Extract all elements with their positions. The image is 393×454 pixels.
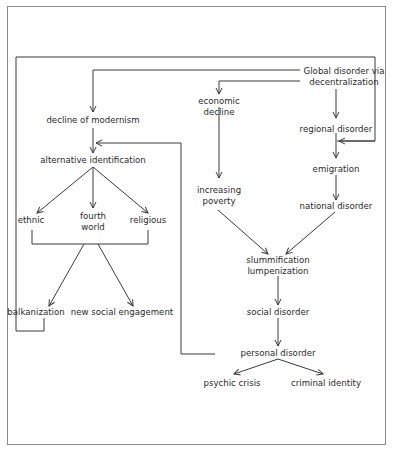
node-criminal-identity: criminal identity <box>291 378 361 389</box>
node-balkanization: balkanization <box>7 307 64 318</box>
arrow-global-to-modernism <box>93 70 300 112</box>
node-new-social-engagement: new social engagement <box>71 307 173 318</box>
node-global-disorder: Global disorder via decentralization <box>304 66 385 88</box>
node-increasing-poverty: increasing poverty <box>197 185 241 207</box>
loop-line-outer <box>16 57 375 331</box>
node-religious: religious <box>130 215 166 226</box>
node-emigration: emigration <box>313 164 360 175</box>
node-ethnic: ethnic <box>18 215 45 226</box>
node-economic-decline-line2: decline <box>198 107 239 118</box>
arrow-global-to-economic <box>219 81 300 94</box>
node-economic-decline: economic decline <box>198 96 239 118</box>
node-psychic-crisis: psychic crisis <box>203 378 260 389</box>
node-fourth-world-line1: fourth <box>80 211 106 222</box>
node-slummification: slummification lumpenization <box>246 255 309 277</box>
node-national-disorder: national disorder <box>300 201 373 212</box>
node-decline-of-modernism: decline of modernism <box>46 115 139 126</box>
node-personal-disorder: personal disorder <box>240 348 315 359</box>
node-increasing-poverty-line1: increasing <box>197 185 241 196</box>
node-slummification-line1: slummification <box>246 255 309 266</box>
node-fourth-world-line2: world <box>80 222 106 233</box>
node-social-disorder: social disorder <box>247 307 309 318</box>
node-lumpenization-line2: lumpenization <box>246 266 309 277</box>
node-global-disorder-line2: decentralization <box>304 77 385 88</box>
node-alternative-identification: alternative identification <box>40 155 145 166</box>
node-regional-disorder: regional disorder <box>300 124 373 135</box>
node-global-disorder-line1: Global disorder via <box>304 66 385 77</box>
node-fourth-world: fourth world <box>80 211 106 233</box>
node-economic-decline-line1: economic <box>198 96 239 107</box>
node-increasing-poverty-line2: poverty <box>197 196 241 207</box>
